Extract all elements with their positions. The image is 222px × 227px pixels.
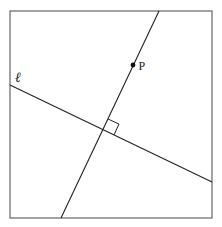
line-l [10,85,212,182]
line-l-label: ℓ [15,70,21,85]
perpendicular-line [61,11,159,218]
frame-border [10,11,212,218]
point-p-label: P [139,59,146,73]
diagram-canvas: P ℓ [0,0,222,227]
point-p-dot [131,63,136,68]
